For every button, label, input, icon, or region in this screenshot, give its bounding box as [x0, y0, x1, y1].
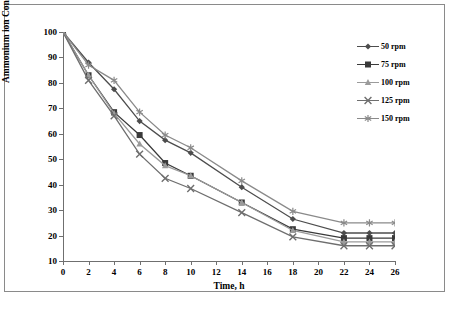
x-tick-label: 22 — [332, 268, 356, 277]
series-line-50-rpm — [63, 32, 395, 233]
series-canvas — [63, 32, 395, 261]
y-tick-label: 80 — [31, 79, 57, 88]
square-marker — [365, 61, 371, 67]
legend-triangle-icon — [361, 77, 375, 88]
x-tick-mark — [165, 261, 166, 265]
x-tick-mark — [89, 261, 90, 265]
legend-swatch — [357, 77, 379, 88]
legend-asterisk-icon — [361, 113, 375, 124]
legend-label: 125 rpm — [379, 96, 410, 105]
x-tick-mark — [63, 261, 64, 265]
y-tick-label: 10 — [31, 257, 57, 266]
asterisk-marker — [365, 114, 371, 121]
cross-marker — [162, 175, 169, 182]
x-tick-label: 14 — [230, 268, 254, 277]
x-tick-label: 20 — [306, 268, 330, 277]
legend-item[interactable]: 125 rpm — [357, 91, 443, 109]
x-tick-mark — [344, 261, 345, 265]
legend-label: 75 rpm — [379, 60, 406, 69]
cross-marker — [365, 97, 372, 104]
x-tick-label: 10 — [179, 268, 203, 277]
triangle-marker — [365, 79, 371, 85]
legend-item[interactable]: 150 rpm — [357, 109, 443, 127]
x-tick-label: 26 — [383, 268, 407, 277]
legend-square-icon — [361, 59, 375, 70]
legend-label: 150 rpm — [379, 114, 410, 123]
legend-diamond-icon — [361, 41, 375, 52]
x-tick-label: 2 — [77, 268, 101, 277]
y-tick-label: 90 — [31, 53, 57, 62]
x-tick-mark — [369, 261, 370, 265]
cross-marker — [187, 185, 194, 192]
diamond-marker — [365, 43, 371, 49]
figure-frame: Ammonium ion Conc., ppm 1020304050607080… — [4, 4, 445, 292]
x-tick-mark — [140, 261, 141, 265]
x-tick-mark — [191, 261, 192, 265]
plot-area — [63, 32, 395, 261]
cross-marker — [136, 151, 143, 158]
x-tick-label: 16 — [255, 268, 279, 277]
legend-label: 50 rpm — [379, 42, 406, 51]
x-tick-mark — [216, 261, 217, 265]
x-tick-label: 12 — [204, 268, 228, 277]
legend-item[interactable]: 75 rpm — [357, 55, 443, 73]
legend-swatch — [357, 113, 379, 124]
y-tick-label: 20 — [31, 232, 57, 241]
x-tick-mark — [242, 261, 243, 265]
legend: 50 rpm75 rpm100 rpm125 rpm150 rpm — [357, 37, 443, 127]
legend-item[interactable]: 50 rpm — [357, 37, 443, 55]
x-tick-mark — [293, 261, 294, 265]
legend-swatch — [357, 95, 379, 106]
x-tick-mark — [267, 261, 268, 265]
legend-swatch — [357, 41, 379, 52]
diamond-marker — [290, 216, 296, 222]
legend-cross-icon — [361, 95, 375, 106]
x-tick-label: 0 — [51, 268, 75, 277]
series-line-125-rpm — [63, 32, 395, 246]
x-tick-label: 6 — [128, 268, 152, 277]
y-tick-label: 70 — [31, 104, 57, 113]
y-axis-title: Ammonium ion Conc., ppm — [1, 0, 11, 83]
x-tick-mark — [318, 261, 319, 265]
x-tick-mark — [114, 261, 115, 265]
x-axis-title: Time, h — [63, 281, 395, 291]
legend-label: 100 rpm — [379, 78, 410, 87]
y-tick-label: 100 — [31, 28, 57, 37]
x-axis-line — [63, 261, 395, 262]
y-tick-label: 50 — [31, 155, 57, 164]
series-line-150-rpm — [63, 32, 395, 223]
y-tick-label: 60 — [31, 130, 57, 139]
legend-swatch — [357, 59, 379, 70]
square-marker — [137, 132, 143, 138]
x-tick-label: 18 — [281, 268, 305, 277]
asterisk-marker — [239, 177, 245, 184]
legend-item[interactable]: 100 rpm — [357, 73, 443, 91]
x-tick-label: 4 — [102, 268, 126, 277]
y-tick-label: 40 — [31, 181, 57, 190]
x-tick-mark — [395, 261, 396, 265]
y-tick-label: 30 — [31, 206, 57, 215]
x-tick-label: 24 — [357, 268, 381, 277]
cross-marker — [238, 209, 245, 216]
asterisk-marker — [187, 144, 193, 151]
series-line-100-rpm — [63, 32, 395, 242]
x-tick-label: 8 — [153, 268, 177, 277]
